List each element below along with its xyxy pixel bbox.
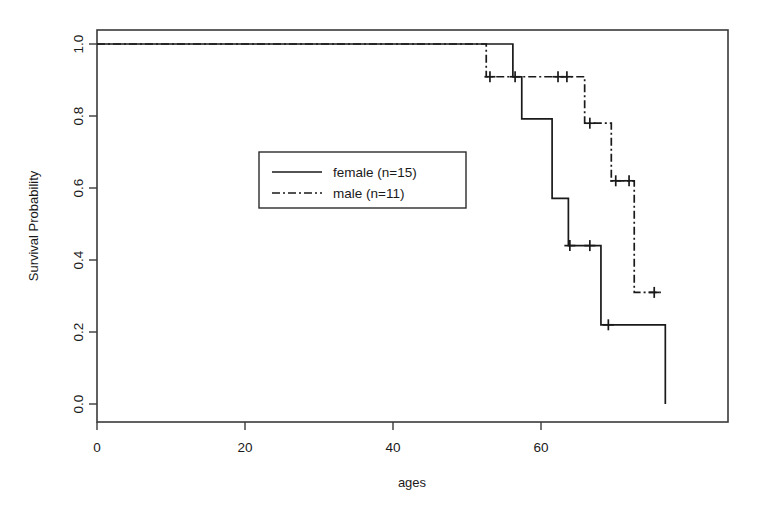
legend-label-male: male (n=11) [333, 186, 404, 201]
survival-curve-chart: 0.00.20.40.60.81.0 0204060 Survival Prob… [0, 0, 769, 514]
x-axis-label: ages [398, 475, 427, 490]
x-tick-label: 0 [93, 440, 101, 455]
y-axis-label: Survival Probability [26, 170, 41, 281]
y-tick-label: 0.6 [71, 179, 86, 198]
figure-background [0, 0, 769, 514]
y-tick-label: 1.0 [71, 35, 86, 54]
x-tick-label: 20 [237, 440, 252, 455]
x-tick-label: 40 [385, 440, 400, 455]
chart-legend: female (n=15) male (n=11) [259, 152, 466, 208]
y-tick-label: 0.2 [71, 323, 86, 342]
legend-label-female: female (n=15) [333, 165, 417, 180]
y-tick-label: 0.8 [71, 107, 86, 126]
survival-plot-figure: 0.00.20.40.60.81.0 0204060 Survival Prob… [0, 0, 769, 514]
x-tick-label: 60 [533, 440, 548, 455]
y-tick-label: 0.0 [71, 395, 86, 414]
y-tick-label: 0.4 [71, 250, 86, 269]
